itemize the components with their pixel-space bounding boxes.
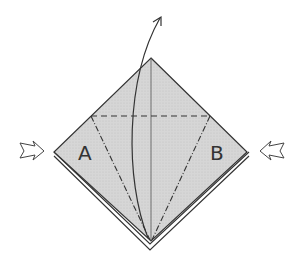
origami-diagram	[0, 0, 304, 259]
flap-label-b: B	[210, 141, 224, 165]
push-arrow-right-icon	[260, 141, 284, 160]
flap-label-a: A	[78, 141, 92, 165]
push-arrow-left-icon	[20, 141, 44, 160]
